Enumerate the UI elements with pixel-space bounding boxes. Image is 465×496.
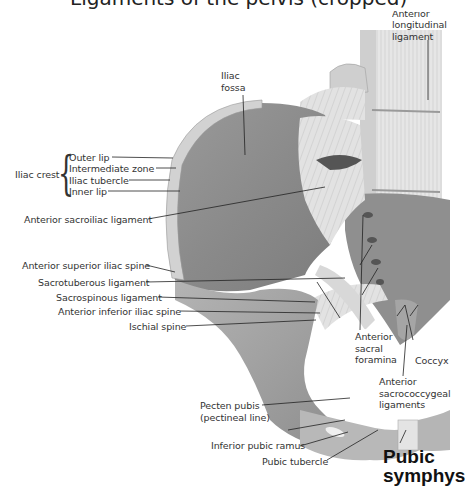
label-pubic-tubercle: Pubic tubercle (262, 456, 328, 468)
label-line: (pectineal line) (200, 412, 270, 424)
label-anterior-superior-iliac-spine: Anterior superior iliac spine (22, 260, 150, 272)
label-coccyx: Coccyx (415, 355, 449, 367)
label-inner-lip: Inner lip (69, 186, 107, 198)
label-anterior-sacral-foramina: Anterior sacral foramina (355, 331, 397, 366)
label-line: ligament (392, 31, 447, 43)
label-line: sacrococcygeal (379, 388, 451, 400)
label-line: Anterior (392, 11, 447, 19)
label-line: Iliac (221, 70, 245, 82)
label-line: Pecten pubis (200, 400, 270, 412)
label-line: longitudinal (392, 19, 447, 31)
label-anterior-inferior-iliac-spine: Anterior inferior iliac spine (58, 306, 181, 318)
label-anterior-sacrococcygeal-ligaments: Anterior sacrococcygeal ligaments (379, 376, 451, 411)
label-line: Pubic (383, 447, 465, 466)
label-outer-lip: Outer lip (69, 152, 109, 164)
label-line: Anterior (355, 331, 397, 343)
label-line: fossa (221, 82, 245, 94)
label-pecten-pubis: Pecten pubis (pectineal line) (200, 400, 270, 423)
label-ischial-spine: Ischial spine (129, 321, 186, 333)
label-iliac-fossa: Iliac fossa (221, 70, 245, 93)
label-pubic-symphysis: Pubic symphys (383, 447, 465, 485)
label-line: Anterior (379, 376, 451, 388)
label-anterior-sacroiliac-ligament: Anterior sacroiliac ligament (24, 214, 152, 226)
label-intermediate-zone: Intermediate zone (69, 163, 154, 175)
label-line: foramina (355, 354, 397, 366)
label-line: symphys (383, 466, 465, 485)
label-sacrotuberous-ligament: Sacrotuberous ligament (38, 277, 149, 289)
figure-title-cropped: Ligaments of the pelvis (cropped) (70, 0, 407, 10)
label-iliac-crest: Iliac crest (15, 169, 59, 181)
label-anterior-longitudinal-ligament: Anterior longitudinal ligament (392, 11, 447, 42)
label-line: sacral (355, 343, 397, 355)
vertebral-column (370, 30, 442, 205)
label-sacrospinous-ligament: Sacrospinous ligament (56, 292, 162, 304)
label-inferior-pubic-ramus: Inferior pubic ramus (211, 440, 305, 452)
label-iliac-tubercle: Iliac tubercle (69, 175, 129, 187)
label-line: ligaments (379, 399, 451, 411)
